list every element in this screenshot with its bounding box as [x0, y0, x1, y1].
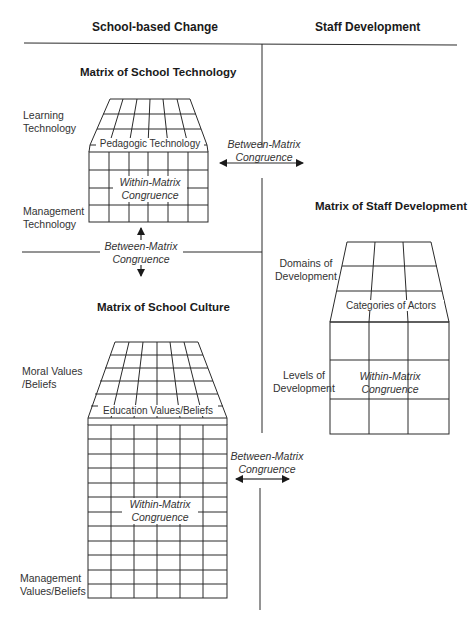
tech-within-matrix-label: Within-Matrix Congruence [113, 176, 187, 202]
domains-of-development-label: Domains of Development [275, 257, 337, 283]
management-values-label: Management Values/Beliefs [20, 572, 86, 598]
header-staff-development: Staff Development [315, 20, 420, 34]
header-divider-line [24, 43, 457, 45]
pedagogic-technology-label: Pedagogic Technology [96, 138, 204, 149]
between-tech-staff-label: Between-Matrix Congruence [220, 138, 308, 164]
technology-matrix-grid [89, 99, 208, 222]
staff-within-matrix-label: Within-Matrix Congruence [350, 370, 430, 396]
between-culture-staff-label: Between-Matrix Congruence [226, 450, 308, 476]
moral-values-label: Moral Values /Beliefs [22, 365, 83, 391]
staff-matrix-grid [330, 242, 449, 434]
culture-matrix-grid [88, 342, 227, 598]
culture-matrix-title: Matrix of School Culture [97, 301, 230, 313]
education-values-label: Education Values/Beliefs [98, 405, 218, 416]
technology-matrix-title: Matrix of School Technology [80, 66, 236, 78]
culture-within-matrix-label: Within-Matrix Congruence [122, 498, 198, 524]
learning-technology-label: Learning Technology [23, 109, 76, 135]
header-school-based-change: School-based Change [92, 20, 218, 34]
categories-of-actors-label: Categories of Actors [338, 300, 444, 311]
levels-of-development-label: Levels of Development [273, 369, 335, 395]
staff-matrix-title: Matrix of Staff Development [315, 200, 467, 212]
between-tech-culture-label: Between-Matrix Congruence [98, 240, 184, 266]
management-technology-label: Management Technology [23, 205, 84, 231]
